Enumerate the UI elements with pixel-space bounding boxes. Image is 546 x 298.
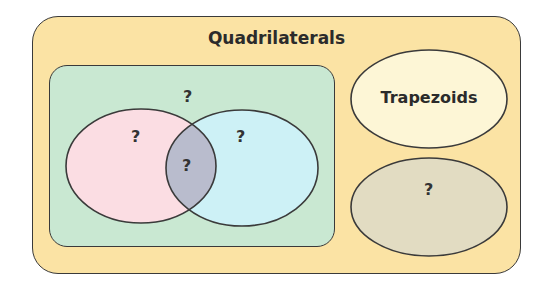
venn-shapes xyxy=(0,0,546,298)
right-circle-label: ? xyxy=(236,127,245,146)
other-set-label: ? xyxy=(424,180,433,199)
trapezoids-label: Trapezoids xyxy=(350,88,508,107)
inner-set-label: ? xyxy=(183,87,192,106)
left-circle-label: ? xyxy=(131,127,140,146)
other-set xyxy=(351,158,507,256)
intersection-label: ? xyxy=(182,156,191,175)
